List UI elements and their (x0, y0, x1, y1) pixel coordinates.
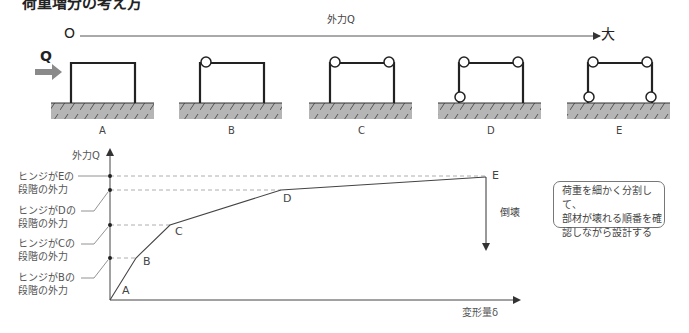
frame-b (179, 57, 282, 119)
collapse-label: 倒壊 (500, 207, 520, 219)
top-axis-caption: 外力Q (327, 14, 355, 26)
hinge-icon (646, 92, 656, 102)
level-d-label: ヒンジがDの 段階の外力 (18, 204, 76, 230)
top-axis-end-label: 大 (601, 28, 615, 40)
level-c-label: ヒンジがCの 段階の外力 (18, 237, 75, 263)
hinge-icon (455, 92, 465, 102)
frame-label-b: B (228, 125, 235, 137)
point-label-b: B (143, 256, 151, 268)
x-axis-label: 変形量δ (462, 306, 498, 319)
point-label-c: C (175, 226, 183, 238)
frame-a (51, 63, 154, 119)
level-guides (110, 176, 486, 258)
hinge-icon (330, 57, 340, 67)
point-label-a: A (122, 285, 130, 297)
collapse-arrow-icon (482, 177, 490, 251)
frame-d (438, 57, 541, 119)
design-note-callout: 荷重を細かく分割して、 部材が壊れる順番を確 認しながら設計する (553, 181, 665, 228)
hinge-icon (513, 57, 523, 67)
leader-lines (78, 176, 108, 278)
hinge-icon (588, 57, 598, 67)
point-label-e: E (492, 170, 499, 182)
load-symbol: Q (40, 50, 52, 62)
level-b-label: ヒンジがBの 段階の外力 (18, 271, 75, 297)
frame-e (567, 57, 670, 119)
load-deformation-curve (110, 177, 486, 300)
point-label-d: D (283, 193, 291, 205)
diagram-canvas (0, 0, 689, 333)
load-arrow-icon (35, 64, 62, 80)
hinge-icon (584, 92, 594, 102)
frame-c (309, 57, 412, 119)
level-e-label: ヒンジがEの 段階の外力 (18, 170, 74, 196)
frame-label-c: C (358, 125, 365, 137)
frame-label-e: E (616, 125, 622, 137)
hinge-icon (642, 57, 652, 67)
hinge-icon (459, 57, 469, 67)
frame-label-a: A (99, 125, 106, 137)
hinge-icon (201, 57, 211, 67)
hinge-icon (384, 57, 394, 67)
frame-label-d: D (487, 125, 495, 137)
top-axis-start-label: O (64, 27, 75, 39)
y-axis-label: 外力Q (72, 149, 100, 162)
